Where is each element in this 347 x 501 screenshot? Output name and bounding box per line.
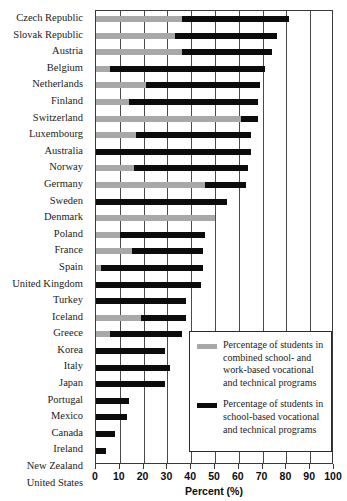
x-axis-tick <box>238 464 239 469</box>
category-label: United Kingdom <box>0 276 88 293</box>
legend-swatch-combined-icon <box>197 344 217 349</box>
bar-segment-school-based <box>146 82 260 88</box>
category-label: Spain <box>0 259 88 276</box>
bar-row <box>96 243 334 260</box>
bar-segment-combined <box>96 248 132 254</box>
x-axis-tick <box>214 464 215 469</box>
bar-segment-school-based <box>205 182 245 188</box>
bar-chart: Czech RepublicSlovak RepublicAustriaBelg… <box>0 0 347 501</box>
x-axis-tick <box>285 464 286 469</box>
bar-segment-combined <box>96 82 146 88</box>
x-axis-tick <box>309 464 310 469</box>
category-label: Finland <box>0 93 88 110</box>
category-label: New Zealand <box>0 458 88 475</box>
bar-row <box>96 61 334 78</box>
category-label: Iceland <box>0 309 88 326</box>
bar-row <box>96 11 334 28</box>
bar-segment-school-based <box>136 132 250 138</box>
category-label: Netherlands <box>0 76 88 93</box>
bar-segment-school-based <box>96 448 106 454</box>
bar-segment-school-based <box>182 16 289 22</box>
category-label: Poland <box>0 226 88 243</box>
bar-segment-school-based <box>96 414 127 420</box>
bar-segment-school-based <box>110 331 181 337</box>
bar-segment-school-based <box>96 431 115 437</box>
legend-label-combined: Percentage of students in combined schoo… <box>223 339 325 389</box>
bar-segment-school-based <box>96 348 165 354</box>
bar-row <box>96 144 334 161</box>
x-axis-tick-label: 0 <box>92 470 98 482</box>
bar-segment-combined <box>96 49 182 55</box>
x-axis-tick <box>166 464 167 469</box>
bar-segment-school-based <box>101 265 203 271</box>
category-label: Austria <box>0 43 88 60</box>
bar-segment-school-based <box>141 315 186 321</box>
x-axis-ticks <box>95 464 333 469</box>
x-axis-tick-label: 100 <box>324 470 342 482</box>
bar-segment-school-based <box>175 33 277 39</box>
x-axis-tick <box>119 464 120 469</box>
bar-segment-combined <box>96 215 215 221</box>
chart-legend: Percentage of students in combined schoo… <box>189 331 332 452</box>
category-label: Portugal <box>0 392 88 409</box>
x-axis-tick-label: 20 <box>137 470 149 482</box>
bar-segment-school-based <box>120 232 206 238</box>
bar-segment-combined <box>96 16 182 22</box>
category-label: Sweden <box>0 193 88 210</box>
category-label: Belgium <box>0 60 88 77</box>
x-axis-title: Percent (%) <box>95 485 333 497</box>
x-axis-tick-label: 50 <box>208 470 220 482</box>
x-axis-tick-labels: 0102030405060708090100 <box>95 470 333 484</box>
bar-row <box>96 111 334 128</box>
bar-row <box>96 177 334 194</box>
category-label: France <box>0 242 88 259</box>
bar-row <box>96 44 334 61</box>
legend-swatch-school-based-icon <box>197 403 217 408</box>
bar-row <box>96 293 334 310</box>
legend-item: Percentage of students in school-based v… <box>197 398 325 436</box>
x-axis-tick-label: 90 <box>303 470 315 482</box>
bar-segment-school-based <box>134 165 248 171</box>
bar-row <box>96 127 334 144</box>
category-label: Mexico <box>0 408 88 425</box>
bar-segment-school-based <box>182 49 272 55</box>
category-axis-labels: Czech RepublicSlovak RepublicAustriaBelg… <box>0 10 88 491</box>
category-label: Turkey <box>0 292 88 309</box>
legend-label-school-based: Percentage of students in school-based v… <box>223 398 325 436</box>
x-axis-tick-label: 30 <box>161 470 173 482</box>
bar-segment-combined <box>96 116 241 122</box>
bar-segment-combined <box>96 182 205 188</box>
bar-segment-school-based <box>96 381 165 387</box>
bar-segment-school-based <box>110 66 265 72</box>
bar-row <box>96 310 334 327</box>
bar-segment-school-based <box>96 282 201 288</box>
bar-segment-school-based <box>96 298 186 304</box>
category-label: Norway <box>0 159 88 176</box>
category-label: Ireland <box>0 441 88 458</box>
bar-segment-combined <box>96 232 120 238</box>
category-label: Luxembourg <box>0 126 88 143</box>
bar-segment-combined <box>96 132 136 138</box>
x-axis-tick-label: 40 <box>184 470 196 482</box>
x-axis-tick-label: 10 <box>113 470 125 482</box>
bar-segment-school-based <box>241 116 258 122</box>
category-label: Japan <box>0 375 88 392</box>
bar-segment-school-based <box>96 149 251 155</box>
category-label: Denmark <box>0 209 88 226</box>
category-label: Switzerland <box>0 110 88 127</box>
x-axis-tick <box>333 464 334 469</box>
bar-segment-school-based <box>96 398 129 404</box>
bar-segment-combined <box>96 315 141 321</box>
bar-segment-combined <box>96 99 129 105</box>
x-axis-tick-label: 70 <box>256 470 268 482</box>
bar-segment-combined <box>96 331 110 337</box>
bar-row <box>96 77 334 94</box>
category-label: United States <box>0 475 88 492</box>
bar-row <box>96 94 334 111</box>
bar-segment-school-based <box>96 199 227 205</box>
bar-segment-combined <box>96 165 134 171</box>
bar-row <box>96 194 334 211</box>
bar-segment-combined <box>96 66 110 72</box>
x-axis-tick <box>190 464 191 469</box>
bar-row <box>96 277 334 294</box>
